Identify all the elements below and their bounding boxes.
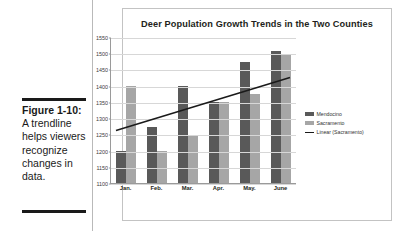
- y-tick-mark: [109, 119, 112, 120]
- x-axis-label: May.: [234, 185, 265, 191]
- bar-mendocino[interactable]: [209, 102, 219, 183]
- y-tick-mark: [109, 54, 112, 55]
- gridline: [111, 135, 296, 136]
- bar-sacramento[interactable]: [250, 94, 260, 183]
- legend-swatch-icon: [305, 121, 314, 125]
- bar-group: [142, 38, 173, 183]
- bar-mendocino[interactable]: [240, 62, 250, 183]
- x-axis-label: June: [265, 185, 296, 191]
- x-axis-label: Feb.: [141, 185, 172, 191]
- legend-item-mendocino[interactable]: Mendocino: [305, 111, 364, 117]
- x-axis-label: Jan.: [110, 185, 141, 191]
- column-divider: [92, 0, 93, 231]
- gridline: [111, 168, 296, 169]
- x-axis-labels: Jan.Feb.Mar.Apr.May.June: [110, 185, 296, 191]
- legend-item-linear-sacramento[interactable]: Linear (Sacramento): [305, 129, 364, 135]
- y-tick-mark: [109, 70, 112, 71]
- figure-caption: A trendline helps viewers recognize chan…: [22, 117, 90, 183]
- y-tick-label: 1400: [96, 84, 108, 90]
- y-tick-mark: [109, 151, 112, 152]
- chart-legend: MendocinoSacramentoLinear (Sacramento): [305, 111, 364, 139]
- y-tick-label: 1250: [96, 132, 108, 138]
- bar-group: [173, 38, 204, 183]
- caption-text-block: Figure 1-10: A trendline helps viewers r…: [22, 104, 90, 183]
- bar-groups: [111, 38, 296, 183]
- bar-group: [265, 38, 296, 183]
- y-tick-mark: [109, 135, 112, 136]
- y-tick-label: 1200: [96, 149, 108, 155]
- bar-sacramento[interactable]: [188, 135, 198, 183]
- figure-page: Figure 1-10: A trendline helps viewers r…: [0, 0, 401, 231]
- plot-area: 1100115012001250130013501400145015001550: [110, 38, 296, 184]
- y-tick-mark: [109, 86, 112, 87]
- chart-title: Deer Population Growth Trends in the Two…: [123, 19, 391, 29]
- y-tick-label: 1450: [96, 67, 108, 73]
- gridline: [111, 54, 296, 55]
- bar-group: [203, 38, 234, 183]
- legend-label: Mendocino: [317, 111, 342, 117]
- bar-group: [111, 38, 142, 183]
- legend-swatch-icon: [305, 112, 314, 116]
- y-tick-label: 1100: [96, 181, 108, 187]
- y-tick-label: 1550: [96, 35, 108, 41]
- x-axis-label: Apr.: [203, 185, 234, 191]
- x-axis-label: Mar.: [172, 185, 203, 191]
- gridline: [111, 70, 296, 71]
- gridline: [111, 119, 296, 120]
- y-tick-mark: [109, 167, 112, 168]
- gridline: [111, 103, 296, 104]
- legend-label: Linear (Sacramento): [317, 129, 364, 135]
- legend-item-sacramento[interactable]: Sacramento: [305, 120, 364, 126]
- bar-sacramento[interactable]: [219, 102, 229, 183]
- caption-rule-top: [22, 98, 86, 101]
- caption-column: Figure 1-10: A trendline helps viewers r…: [0, 0, 92, 231]
- gridline: [111, 87, 296, 88]
- y-tick-label: 1300: [96, 116, 108, 122]
- y-tick-label: 1350: [96, 100, 108, 106]
- legend-line-icon: [305, 132, 314, 133]
- y-tick-mark: [109, 102, 112, 103]
- y-tick-label: 1150: [96, 165, 108, 171]
- gridline: [111, 38, 296, 39]
- legend-label: Sacramento: [317, 120, 345, 126]
- gridline: [111, 152, 296, 153]
- y-tick-mark: [109, 38, 112, 39]
- bar-group: [234, 38, 265, 183]
- figure-number: Figure 1-10:: [22, 104, 90, 117]
- caption-rule-bottom: [22, 210, 86, 213]
- y-tick-label: 1500: [96, 51, 108, 57]
